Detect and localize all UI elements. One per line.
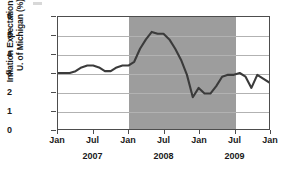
series-line-svg: [58, 17, 269, 129]
x-axis-tick-label: Jan: [49, 135, 65, 145]
x-axis-tick-label: Jul: [228, 135, 241, 145]
y-axis-tick-label: 3: [0, 68, 12, 78]
y-axis-tick-label: 0: [0, 125, 12, 135]
y-axis-tick-mark: [51, 73, 56, 74]
y-axis-tick-label: 1: [0, 106, 12, 116]
x-axis-year-label: 2009: [224, 151, 244, 161]
x-axis-tick-mark: [270, 130, 271, 134]
y-axis-tick-mark: [51, 92, 56, 93]
y-axis-tick-mark: [51, 130, 56, 131]
x-axis-tick-label: Jan: [262, 135, 278, 145]
x-axis-tick-label: Jan: [120, 135, 136, 145]
x-axis-tick-label: Jul: [157, 135, 170, 145]
y-axis-tick-mark: [51, 16, 56, 17]
y-axis-tick-label: 4: [0, 49, 12, 59]
x-axis-tick-mark: [235, 130, 236, 134]
y-axis-tick-mark: [51, 54, 56, 55]
series-line-inflation-expectations: [58, 32, 269, 97]
x-axis-year-label: 2008: [153, 151, 173, 161]
crop-artifact: [33, 2, 42, 5]
y-axis-tick-label: 2: [0, 87, 12, 97]
x-axis-tick-mark: [199, 130, 200, 134]
x-axis-tick-label: Jan: [191, 135, 207, 145]
x-axis-tick-mark: [93, 130, 94, 134]
plot-area: [57, 16, 270, 130]
y-axis-tick-label: 6: [0, 11, 12, 21]
x-axis-tick-label: Jul: [86, 135, 99, 145]
x-axis-year-label: 2007: [82, 151, 102, 161]
y-axis-tick-mark: [51, 35, 56, 36]
x-axis-tick-mark: [164, 130, 165, 134]
y-axis-title-line-2: U. of Michigan (%): [16, 0, 26, 71]
inflation-expectations-chart: Inflation Expectations— U. of Michigan (…: [0, 0, 286, 175]
x-axis-tick-mark: [128, 130, 129, 134]
y-axis-tick-label: 5: [0, 30, 12, 40]
x-axis-tick-mark: [57, 130, 58, 134]
y-axis-tick-mark: [51, 111, 56, 112]
